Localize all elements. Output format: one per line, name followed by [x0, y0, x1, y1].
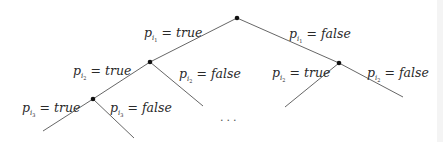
decision-tree-diagram: pi1=truepi1=falsepi2=truepi2=falsepi2=tr…	[0, 0, 443, 142]
tree-node	[148, 60, 153, 65]
edge-label: pi2=false	[179, 66, 241, 84]
svg-text:pi2=true: pi2=true	[73, 63, 131, 81]
continuation-ellipsis: ...	[220, 111, 240, 124]
edge-labels: pi1=truepi1=falsepi2=truepi2=falsepi2=tr…	[22, 25, 429, 118]
tree-node	[91, 97, 96, 102]
edge-label: pi2=false	[367, 65, 429, 83]
tree-node	[337, 61, 342, 66]
tree-node	[235, 16, 240, 21]
edge-label: pi3=false	[110, 100, 172, 118]
svg-text:pi2=true: pi2=true	[272, 65, 330, 83]
edge-label: pi2=true	[73, 63, 131, 81]
svg-text:pi1=false: pi1=false	[289, 26, 351, 44]
svg-text:pi2=false: pi2=false	[367, 65, 429, 83]
edge-label: pi1=true	[144, 25, 202, 43]
edge-label: pi1=false	[289, 26, 351, 44]
tree-svg: pi1=truepi1=falsepi2=truepi2=falsepi2=tr…	[0, 0, 443, 142]
svg-text:pi2=false: pi2=false	[179, 66, 241, 84]
svg-text:pi3=false: pi3=false	[110, 100, 172, 118]
edge-label: pi2=true	[272, 65, 330, 83]
svg-text:pi3=true: pi3=true	[22, 100, 80, 118]
svg-text:pi1=true: pi1=true	[144, 25, 202, 43]
edge-label: pi3=true	[22, 100, 80, 118]
